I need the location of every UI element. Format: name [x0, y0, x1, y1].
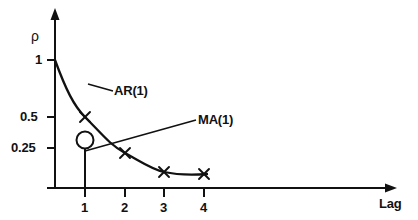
x-tick-label-2: 2: [121, 201, 128, 214]
x-tick-label-3: 3: [160, 201, 167, 214]
acf-chart-figure: ρ 1 0.5 0.25 1 2 3 4 Lag AR(1) MA(1): [0, 0, 418, 220]
x-axis: [47, 184, 397, 193]
x-tick-label-1: 1: [81, 201, 88, 214]
ar1-curve: [55, 60, 207, 175]
y-tick-label-0-25: 0.25: [11, 141, 36, 154]
x-axis-arrowhead: [385, 184, 397, 193]
y-axis-arrowhead: [51, 8, 60, 20]
y-tick-label-1: 1: [35, 53, 42, 66]
x-axis-name: Lag: [379, 197, 402, 210]
chart-canvas: [0, 0, 418, 220]
y-axis-ticks: [47, 60, 55, 148]
y-axis-name: ρ: [31, 29, 39, 43]
y-tick-label-0-5: 0.5: [20, 110, 37, 123]
ma1-circle-marker: [77, 132, 94, 149]
x-axis-ticks: [85, 188, 204, 197]
ar1-marker-lag1: [80, 112, 90, 122]
ar1-leader-line: [88, 84, 113, 91]
ma1-series-label: MA(1): [198, 113, 233, 126]
y-axis: [51, 8, 60, 188]
x-tick-label-4: 4: [200, 201, 207, 214]
ar1-series-label: AR(1): [114, 84, 148, 97]
ar1-marker-lag2: [120, 148, 130, 158]
